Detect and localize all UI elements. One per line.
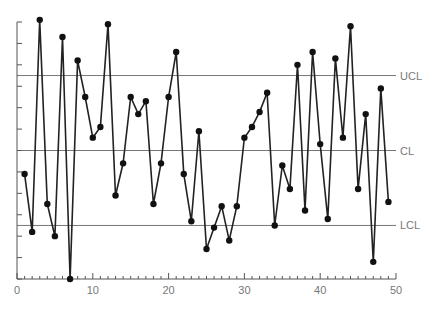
data-point (272, 222, 278, 228)
limit-label-cl: CL (400, 145, 414, 157)
data-point (378, 85, 384, 91)
data-point (355, 186, 361, 192)
data-point (287, 186, 293, 192)
x-tick-label: 30 (238, 284, 250, 296)
data-point (347, 23, 353, 29)
data-point (340, 134, 346, 140)
data-point (150, 201, 156, 207)
data-series (21, 17, 391, 283)
x-tick-label: 0 (14, 284, 20, 296)
data-point (309, 49, 315, 55)
x-tick-label: 10 (87, 284, 99, 296)
data-point (370, 259, 376, 265)
data-point (385, 199, 391, 205)
data-point (37, 17, 43, 23)
data-point (135, 111, 141, 117)
data-point (44, 201, 50, 207)
data-point (97, 124, 103, 130)
limit-label-lcl: LCL (400, 219, 420, 231)
limit-label-ucl: UCL (400, 70, 422, 82)
data-point (143, 98, 149, 104)
data-point (226, 237, 232, 243)
data-point (90, 134, 96, 140)
data-point (249, 124, 255, 130)
data-point (67, 276, 73, 282)
data-point (158, 160, 164, 166)
data-point (294, 62, 300, 68)
x-tick-label: 20 (162, 284, 174, 296)
data-point (188, 218, 194, 224)
data-point (29, 229, 35, 235)
data-point (362, 111, 368, 117)
data-point (332, 55, 338, 61)
data-point (128, 94, 134, 100)
data-point (74, 57, 80, 63)
data-point (82, 94, 88, 100)
control-chart: UCLCLLCL01020304050 (0, 0, 436, 316)
data-point (279, 162, 285, 168)
axis-labels: UCLCLLCL01020304050 (14, 70, 422, 296)
data-point (173, 49, 179, 55)
data-point (120, 160, 126, 166)
data-point (105, 21, 111, 27)
data-point (317, 141, 323, 147)
data-point (196, 128, 202, 134)
data-point (264, 89, 270, 95)
data-point (112, 192, 118, 198)
data-point (302, 207, 308, 213)
data-point (181, 171, 187, 177)
data-point (165, 94, 171, 100)
data-point (203, 246, 209, 252)
data-point (52, 233, 58, 239)
data-point (218, 203, 224, 209)
data-point (234, 203, 240, 209)
data-point (21, 171, 27, 177)
data-point (325, 216, 331, 222)
x-tick-label: 40 (314, 284, 326, 296)
x-tick-label: 50 (390, 284, 402, 296)
data-point (256, 109, 262, 115)
data-point (59, 34, 65, 40)
data-point (211, 224, 217, 230)
data-point (241, 134, 247, 140)
